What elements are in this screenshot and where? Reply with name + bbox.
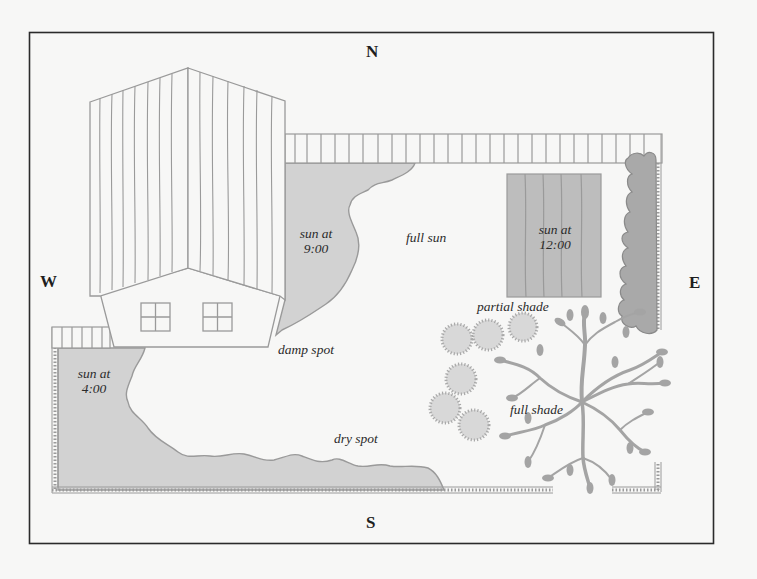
shrub (509, 313, 537, 341)
house-window-right (203, 303, 232, 331)
shrub (442, 324, 472, 354)
label-sun-12: sun at 12:00 (530, 222, 580, 252)
label-sun-4-line2: 4:00 (72, 381, 116, 396)
house-window-left (141, 303, 170, 331)
label-sun-9: sun at 9:00 (296, 226, 336, 256)
compass-east: E (689, 273, 700, 293)
house (90, 68, 285, 347)
label-sun-9-line1: sun at (296, 226, 336, 241)
label-sun-4: sun at 4:00 (72, 366, 116, 396)
north-fence (285, 134, 662, 163)
label-sun-12-line2: 12:00 (530, 237, 580, 252)
shrub (430, 393, 460, 423)
house-roof-left (90, 68, 188, 296)
shrubs (430, 313, 537, 440)
garden-sun-map: N S E W sun at 9:00 full sun sun at 12:0… (0, 0, 757, 579)
compass-north: N (366, 42, 378, 62)
label-partial-shade: partial shade (477, 299, 549, 314)
hedge (618, 153, 657, 334)
shrub (459, 410, 489, 440)
label-sun-12-line1: sun at (530, 222, 580, 237)
label-sun-4-line1: sun at (72, 366, 116, 381)
label-full-sun: full sun (406, 230, 446, 245)
label-dry-spot: dry spot (334, 431, 378, 446)
house-roof-right (188, 68, 285, 300)
garden-plan-svg (0, 0, 757, 579)
label-damp-spot: damp spot (278, 342, 334, 357)
compass-south: S (366, 513, 375, 533)
label-full-shade: full shade (510, 402, 563, 417)
shrub (446, 364, 476, 394)
shrub (473, 320, 503, 350)
compass-west: W (40, 272, 57, 292)
label-sun-9-line2: 9:00 (296, 241, 336, 256)
